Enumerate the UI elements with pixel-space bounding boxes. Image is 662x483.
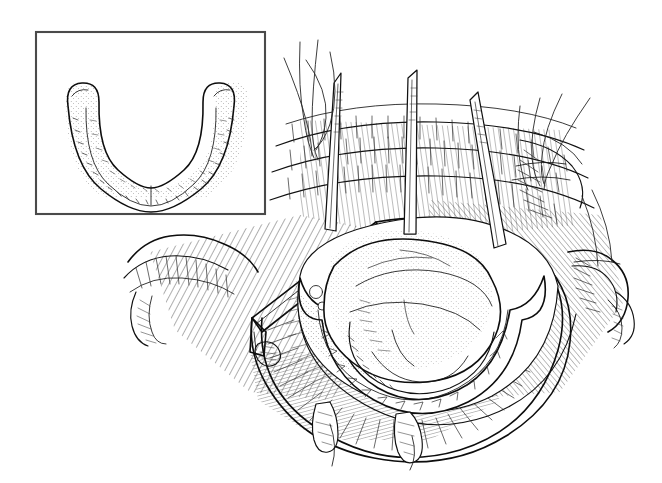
surgical-illustration bbox=[0, 0, 662, 483]
annuloplasty-ring-inset bbox=[36, 32, 265, 214]
figure-root: Mitral valve annuloplasty ring implantat… bbox=[0, 0, 662, 483]
